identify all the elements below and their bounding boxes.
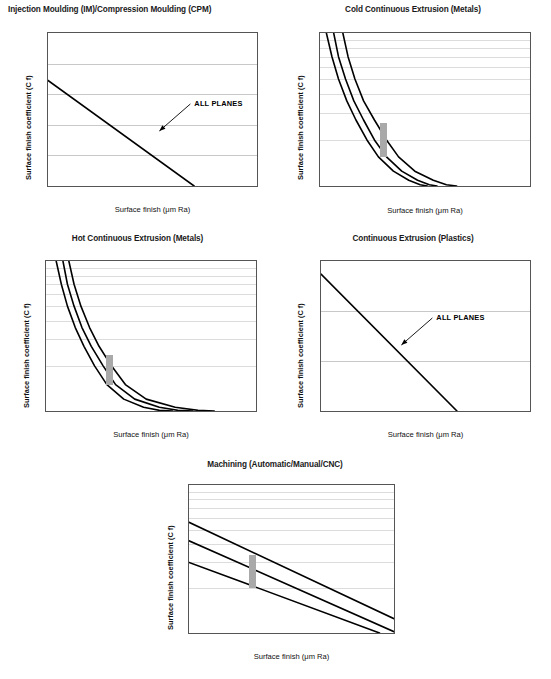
data-series-line — [343, 33, 457, 186]
plot-area: 11.522.50.1110ALL PLANES — [320, 260, 531, 412]
data-series-line — [69, 261, 214, 411]
chart-continuous-extrusion-plastics: Continuous Extrusion (Plastics) Surface … — [275, 230, 551, 455]
y-tick-mark — [319, 186, 320, 187]
plot-area: 11.11.21.31.41.50.11ALL PLANES — [47, 32, 258, 187]
annotation-arrow — [48, 33, 257, 186]
x-axis-label: Surface finish (μm Ra) — [320, 430, 531, 439]
x-minor-tick — [374, 633, 375, 634]
x-minor-tick — [224, 411, 225, 412]
x-minor-tick — [240, 411, 241, 412]
x-minor-tick — [237, 186, 238, 187]
chart-cold-continuous-extrusion: Cold Continuous Extrusion (Metals) Surfa… — [275, 0, 551, 230]
x-minor-tick — [514, 411, 515, 412]
x-minor-tick — [514, 186, 515, 187]
y-axis-label: Surface finish coefficient (C f) — [166, 525, 175, 630]
x-axis-label: Surface finish (μm Ra) — [45, 430, 257, 439]
x-minor-tick — [394, 411, 395, 412]
x-minor-tick — [457, 411, 458, 412]
x-minor-tick — [251, 411, 252, 412]
x-minor-tick — [507, 411, 508, 412]
y-axis-label: Surface finish coefficient (C f) — [22, 303, 31, 408]
data-series-line — [326, 33, 427, 186]
x-minor-tick — [332, 633, 333, 634]
x-minor-tick — [183, 411, 184, 412]
y-tick-mark — [45, 411, 46, 412]
plot-area: 1100.11 — [188, 484, 395, 634]
x-minor-tick — [128, 411, 129, 412]
x-minor-tick — [420, 186, 421, 187]
x-minor-tick — [475, 411, 476, 412]
x-minor-tick — [214, 411, 215, 412]
x-tick-mark — [257, 186, 258, 187]
data-series-line — [189, 522, 394, 618]
x-minor-tick — [520, 186, 521, 187]
x-minor-tick — [109, 411, 110, 412]
x-minor-tick — [352, 411, 353, 412]
x-minor-tick — [475, 186, 476, 187]
x-tick-mark — [426, 411, 427, 412]
x-tick-mark — [530, 411, 531, 412]
x-minor-tick — [525, 186, 526, 187]
x-minor-tick — [499, 411, 500, 412]
x-minor-tick — [119, 411, 120, 412]
x-tick-mark — [321, 411, 322, 412]
x-minor-tick — [246, 411, 247, 412]
y-tick-mark — [188, 633, 189, 634]
x-minor-tick — [402, 186, 403, 187]
x-minor-tick — [384, 411, 385, 412]
x-minor-tick — [520, 411, 521, 412]
x-axis-label: Surface finish (μm Ra) — [319, 206, 531, 215]
x-minor-tick — [225, 186, 226, 187]
chart-title: Cold Continuous Extrusion (Metals) — [275, 5, 551, 14]
x-minor-tick — [415, 411, 416, 412]
range-marker-box — [106, 355, 113, 384]
x-tick-mark — [151, 411, 152, 412]
x-minor-tick — [233, 411, 234, 412]
x-minor-tick — [402, 411, 403, 412]
chart-injection-moulding: Injection Moulding (IM)/Compression Moul… — [0, 0, 275, 230]
x-minor-tick — [349, 633, 350, 634]
x-minor-tick — [194, 186, 195, 187]
series-layer — [320, 33, 530, 186]
x-minor-tick — [287, 633, 288, 634]
series-layer — [46, 261, 256, 411]
x-minor-tick — [409, 411, 410, 412]
x-minor-tick — [135, 411, 136, 412]
x-minor-tick — [457, 186, 458, 187]
x-minor-tick — [371, 411, 372, 412]
x-minor-tick — [148, 186, 149, 187]
x-tick-mark — [256, 411, 257, 412]
x-tick-mark — [189, 633, 190, 634]
x-minor-tick — [507, 186, 508, 187]
x-minor-tick — [498, 186, 499, 187]
x-minor-tick — [383, 186, 384, 187]
x-minor-tick — [201, 411, 202, 412]
x-minor-tick — [421, 411, 422, 412]
x-minor-tick — [78, 411, 79, 412]
x-minor-tick — [96, 411, 97, 412]
plot-area: 1100.1110 — [319, 32, 531, 187]
series-layer — [189, 485, 394, 633]
x-axis-label: Surface finish (μm Ra) — [188, 652, 395, 661]
range-marker-box — [380, 123, 387, 157]
x-minor-tick — [415, 186, 416, 187]
x-minor-tick — [362, 633, 363, 634]
chart-machining: Machining (Automatic/Manual/CNC) Surface… — [130, 455, 420, 679]
x-minor-tick — [141, 411, 142, 412]
y-tick-mark — [320, 411, 321, 412]
chart-title: Continuous Extrusion (Plastics) — [275, 234, 551, 243]
x-axis-label: Surface finish (μm Ra) — [47, 205, 258, 214]
x-minor-tick — [488, 411, 489, 412]
chart-title: Hot Continuous Extrusion (Metals) — [0, 234, 275, 243]
x-tick-mark — [425, 186, 426, 187]
y-axis-label: Surface finish coefficient (C f) — [296, 75, 305, 180]
x-minor-tick — [385, 633, 386, 634]
x-tick-mark — [46, 411, 47, 412]
x-minor-tick — [312, 633, 313, 634]
x-tick-mark — [394, 633, 395, 634]
x-tick-mark — [320, 186, 321, 187]
x-minor-tick — [111, 186, 112, 187]
x-minor-tick — [247, 186, 248, 187]
annotation-arrow — [321, 261, 530, 411]
x-minor-tick — [393, 186, 394, 187]
